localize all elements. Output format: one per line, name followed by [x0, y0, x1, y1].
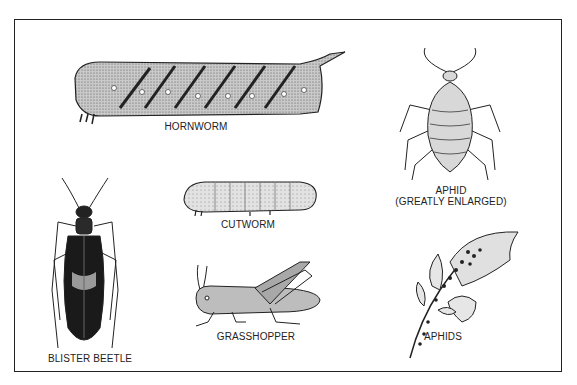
grasshopper-label: GRASSHOPPER [217, 331, 295, 342]
insect-illustrations [0, 0, 577, 385]
aphid-label: APHID [435, 185, 466, 196]
blister-beetle-illustration [52, 178, 118, 348]
hornworm-label: HORNWORM [164, 121, 227, 132]
cutworm-illustration [184, 182, 316, 216]
aphids-label: APHIDS [424, 331, 462, 342]
aphid-sublabel: (GREATLY ENLARGED) [395, 196, 506, 207]
cutworm-label: CUTWORM [221, 219, 275, 230]
grasshopper-illustration [196, 262, 320, 326]
hornworm-illustration [75, 52, 345, 124]
blister-beetle-label: BLISTER BEETLE [48, 353, 132, 364]
aphid-illustration [400, 48, 500, 180]
